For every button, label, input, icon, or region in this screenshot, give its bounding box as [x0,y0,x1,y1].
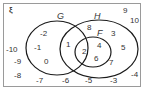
set-h-label: H [94,12,101,20]
element: -5 [85,77,92,85]
element: -4 [131,71,138,79]
element: 6 [94,55,98,63]
element: 3 [111,30,115,38]
element: 1 [66,41,70,49]
element: 2 [82,48,86,56]
element: -7 [36,77,43,85]
element: -2 [40,30,47,38]
element: 0 [44,58,48,66]
element: -1 [34,44,41,52]
universal-set-symbol: ξ [9,6,13,14]
element: 7 [109,59,113,67]
element: 9 [123,7,127,15]
element: -9 [14,58,21,66]
element: 8 [87,24,91,32]
set-f-label: F [97,29,103,37]
set-g-label: G [57,12,64,20]
set-f-circle [75,37,111,67]
element: -8 [14,72,21,80]
element: 5 [121,44,125,52]
element: -10 [6,46,18,54]
element: -3 [110,77,117,85]
element: 10 [130,17,139,25]
element: -6 [62,77,69,85]
element: 4 [97,42,101,50]
